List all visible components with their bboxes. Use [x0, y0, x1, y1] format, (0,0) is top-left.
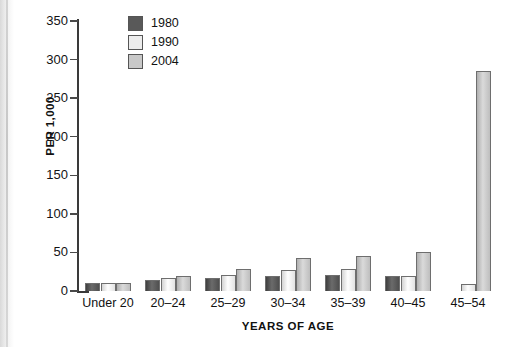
x-tick-label: 45–54 — [438, 296, 498, 310]
y-tick-mark — [70, 175, 78, 177]
y-tick-label: 350 — [24, 14, 68, 27]
bar-group — [85, 21, 131, 291]
y-tick-mark — [70, 20, 78, 22]
bar — [101, 283, 116, 291]
y-tick-mark — [70, 213, 78, 215]
bar-group — [145, 21, 191, 291]
bar — [296, 258, 311, 291]
x-tick-label: Under 20 — [78, 296, 138, 310]
x-axis-baseline — [77, 291, 89, 293]
x-tick-label: 30–34 — [258, 296, 318, 310]
x-tick-label: 35–39 — [318, 296, 378, 310]
x-axis-tick-labels: Under 2020–2425–2930–3435–3940–4545–54 — [78, 296, 498, 316]
bar — [236, 269, 251, 291]
y-tick-label: 300 — [24, 53, 68, 66]
bar — [356, 256, 371, 291]
x-tick-label: 20–24 — [138, 296, 198, 310]
bar — [221, 275, 236, 291]
bar-group — [445, 21, 491, 291]
x-tick-label: 25–29 — [198, 296, 258, 310]
y-tick-mark — [70, 136, 78, 138]
bar — [281, 270, 296, 291]
bar — [476, 71, 491, 291]
bar — [461, 284, 476, 291]
bar-group — [385, 21, 431, 291]
bars-layer — [78, 21, 498, 291]
y-tick-mark — [70, 59, 78, 61]
y-tick-label: 100 — [24, 207, 68, 220]
bar — [265, 276, 280, 291]
bar-group — [265, 21, 311, 291]
y-tick-mark — [70, 290, 78, 292]
x-axis-title: YEARS OF AGE — [78, 320, 498, 332]
y-tick-label: 0 — [24, 284, 68, 297]
bar — [85, 283, 100, 291]
bar — [385, 276, 400, 291]
y-tick-mark — [70, 97, 78, 99]
bar — [341, 269, 356, 291]
bar — [401, 276, 416, 291]
y-tick-label: 50 — [24, 245, 68, 258]
bar — [325, 275, 340, 291]
bar — [205, 278, 220, 291]
bar — [176, 276, 191, 291]
x-tick-label: 40–45 — [378, 296, 438, 310]
bar-group — [205, 21, 251, 291]
bar — [116, 283, 131, 291]
bar — [145, 280, 160, 291]
bar-group — [325, 21, 371, 291]
y-axis-tick-labels: 050100150200250300350 — [16, 0, 68, 347]
bar-chart: 050100150200250300350 PER 1,000 1980 199… — [0, 0, 505, 347]
bar — [161, 278, 176, 291]
y-tick-mark — [70, 252, 78, 254]
y-axis-title: PER 1,000 — [44, 66, 56, 186]
bar — [416, 252, 431, 291]
